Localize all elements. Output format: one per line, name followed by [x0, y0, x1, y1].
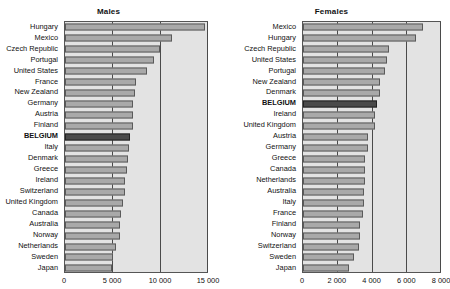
category-label: United States	[0, 65, 61, 76]
bar-row	[65, 66, 207, 77]
bar	[303, 134, 368, 141]
bar-row	[303, 153, 440, 164]
bar-row	[303, 197, 440, 208]
bar	[65, 46, 160, 53]
category-label: Norway	[225, 229, 299, 240]
x-tick-label: 4 000	[362, 275, 381, 287]
bar	[65, 144, 129, 151]
category-label: Netherlands	[225, 174, 299, 185]
bar	[303, 24, 423, 31]
panel-females: Females MexicoHungaryCzech RepublicUnite…	[225, 0, 450, 289]
bar	[303, 221, 360, 228]
category-label: Australia	[225, 185, 299, 196]
bar	[65, 210, 121, 217]
category-label: New Zealand	[225, 76, 299, 87]
bar	[303, 57, 387, 64]
bar	[65, 177, 125, 184]
category-label: Czech Republic	[225, 43, 299, 54]
panel-males: Males HungaryMexicoCzech RepublicPortuga…	[0, 0, 225, 289]
bar-row	[65, 164, 207, 175]
bar-row	[303, 230, 440, 241]
bar	[65, 101, 133, 108]
category-label: Sweden	[0, 251, 61, 262]
bar	[303, 112, 375, 119]
females-x-axis-ticks: 02 0004 0006 0008 000	[302, 275, 441, 287]
category-label: New Zealand	[0, 87, 61, 98]
bar-row	[65, 208, 207, 219]
bar	[65, 232, 120, 239]
x-tick-label: 10 000	[149, 275, 172, 287]
bar-row	[65, 33, 207, 44]
category-label: Germany	[0, 98, 61, 109]
category-label: Switzerland	[225, 240, 299, 251]
bar	[303, 35, 416, 42]
bar	[65, 24, 205, 31]
x-tick-label: 8 000	[432, 275, 450, 287]
category-label: Italy	[225, 196, 299, 207]
bar-row	[65, 241, 207, 252]
category-label: Italy	[0, 141, 61, 152]
bar	[303, 265, 349, 272]
bar-row	[65, 197, 207, 208]
category-label: Japan	[0, 262, 61, 273]
bar-row	[303, 186, 440, 197]
males-plot-area	[64, 21, 208, 273]
category-label: Czech Republic	[0, 43, 61, 54]
category-label: France	[225, 207, 299, 218]
category-label: Switzerland	[0, 185, 61, 196]
bar-row	[303, 241, 440, 252]
bar	[65, 265, 112, 272]
category-label: United Kingdom	[225, 120, 299, 131]
category-label: Hungary	[225, 32, 299, 43]
bar-row	[303, 44, 440, 55]
bar-row	[303, 66, 440, 77]
bar-row	[303, 88, 440, 99]
bar-row	[303, 263, 440, 274]
bar	[65, 134, 130, 141]
bar	[303, 101, 377, 108]
bar-row	[65, 44, 207, 55]
category-label: Greece	[0, 163, 61, 174]
bar	[303, 166, 365, 173]
bar-row	[65, 121, 207, 132]
panel-females-title: Females	[225, 7, 450, 16]
bar-row	[65, 186, 207, 197]
bar	[303, 144, 368, 151]
category-label: Germany	[225, 141, 299, 152]
category-label: Mexico	[225, 21, 299, 32]
bar-row	[303, 132, 440, 143]
category-label: Portugal	[225, 65, 299, 76]
x-tick-label: 0	[300, 275, 304, 287]
bar-row	[65, 132, 207, 143]
bar-row	[65, 55, 207, 66]
bar	[65, 155, 128, 162]
x-tick-label: 6 000	[397, 275, 416, 287]
bar	[65, 243, 116, 250]
males-gridline	[207, 22, 208, 272]
category-label: Sweden	[225, 251, 299, 262]
bar	[65, 254, 113, 261]
bar	[65, 68, 147, 75]
category-label: Denmark	[0, 152, 61, 163]
bar	[65, 188, 125, 195]
category-label: Norway	[0, 229, 61, 240]
bar	[303, 243, 359, 250]
bar-row	[303, 175, 440, 186]
category-label: Austria	[225, 131, 299, 142]
males-category-labels: HungaryMexicoCzech RepublicPortugalUnite…	[0, 21, 61, 273]
category-label: Hungary	[0, 21, 61, 32]
category-label: Australia	[0, 218, 61, 229]
bar-row	[303, 252, 440, 263]
bar-row	[303, 55, 440, 66]
bar	[303, 199, 364, 206]
females-category-labels: MexicoHungaryCzech RepublicUnited States…	[225, 21, 299, 273]
bar	[65, 57, 154, 64]
bar-row	[303, 110, 440, 121]
bar-row	[65, 142, 207, 153]
bar	[65, 199, 123, 206]
category-label: BELGIUM	[0, 131, 61, 142]
category-label: United Kingdom	[0, 196, 61, 207]
bar-row	[303, 77, 440, 88]
bar	[65, 123, 133, 130]
males-x-axis-ticks: 05 00010 00015 000	[64, 275, 208, 287]
